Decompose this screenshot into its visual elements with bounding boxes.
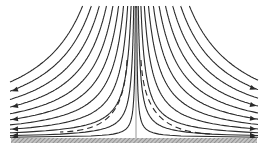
streamline	[141, 6, 258, 133]
streamlines-right	[137, 6, 258, 137]
arrowhead-icon	[250, 102, 256, 107]
streamlines-left	[10, 6, 135, 137]
streamline	[10, 6, 124, 125]
streamline	[10, 6, 131, 133]
streamline	[189, 6, 258, 80]
streamline	[159, 6, 258, 113]
streamline	[137, 6, 258, 137]
streamline	[166, 6, 259, 106]
arrowhead-icon	[12, 103, 18, 108]
streamline	[10, 6, 91, 91]
arrowhead-icon	[12, 126, 18, 131]
streamline	[10, 6, 113, 114]
arrowhead-icon	[12, 87, 19, 92]
arrowhead-icon	[249, 85, 256, 90]
streamline	[153, 6, 258, 119]
streamline	[144, 6, 258, 129]
streamline	[10, 6, 83, 82]
stagnation-flow-diagram	[0, 0, 270, 153]
hatched-wall	[11, 138, 257, 143]
arrowhead-icon	[250, 126, 256, 131]
streamline	[10, 6, 128, 129]
streamline	[10, 6, 107, 107]
streamline	[181, 6, 258, 90]
